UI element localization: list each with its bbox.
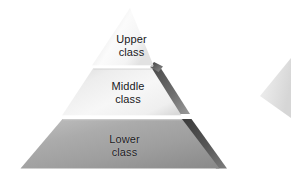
pyramid-diagram: Upper class Middle class Lower class [0, 0, 291, 182]
pyramid-graphic [0, 0, 291, 182]
partial-pyramid-right-shape [260, 58, 291, 118]
pyramid-tier-upper[interactable] [92, 8, 154, 67]
